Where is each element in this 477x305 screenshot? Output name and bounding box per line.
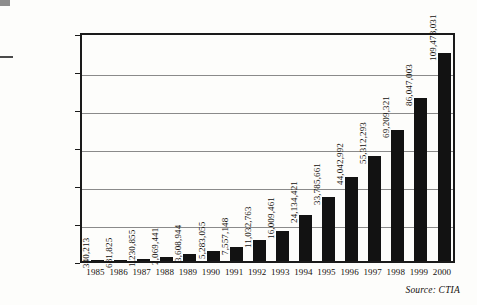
bar-value-label: 3,608,944: [173, 225, 183, 262]
bar: [137, 259, 150, 261]
y-axis-tick-mark: [75, 111, 80, 112]
bar: [368, 156, 381, 261]
bar-value-label: 5,283,055: [197, 222, 207, 259]
bar: [207, 251, 220, 261]
bar: [345, 177, 358, 261]
scan-artifact-corner: [0, 0, 10, 6]
chart-page: Source: CTIA 020,000,00040,000,00060,000…: [0, 0, 477, 305]
x-axis-tick-label: 2000: [425, 267, 459, 277]
gridline: [82, 75, 453, 76]
bar-value-label: 681,825: [104, 237, 114, 267]
bar: [438, 53, 451, 261]
bar-value-label: 2,069,441: [150, 228, 160, 265]
y-axis-tick-mark: [75, 73, 80, 74]
bar: [160, 257, 173, 261]
gridline: [82, 113, 453, 114]
y-axis-tick-mark: [75, 187, 80, 188]
bar: [322, 197, 335, 261]
bar-value-label: 1,230,855: [127, 229, 137, 266]
bar: [114, 260, 127, 261]
bar: [91, 260, 104, 261]
bar: [253, 240, 266, 261]
bar-value-label: 33,785,661: [312, 163, 322, 205]
bar-value-label: 69,209,321: [381, 96, 391, 138]
bar: [230, 247, 243, 261]
bar-value-label: 11,032,763: [243, 206, 253, 248]
bar-value-label: 44,042,992: [335, 143, 345, 185]
source-note: Source: CTIA: [405, 285, 460, 295]
bar: [414, 98, 427, 261]
bar-value-label: 340,213: [81, 238, 91, 268]
scan-artifact-dash: [0, 56, 13, 58]
bar: [183, 254, 196, 261]
bar-value-label: 86,047,003: [404, 64, 414, 106]
y-axis-tick-mark: [75, 149, 80, 150]
bar: [276, 231, 289, 261]
y-axis-tick-mark: [75, 263, 80, 264]
bar: [391, 130, 404, 261]
y-axis-tick-mark: [75, 225, 80, 226]
bar-value-label: 24,134,421: [289, 181, 299, 223]
y-axis-tick-mark: [75, 35, 80, 36]
bar-value-label: 109,478,031: [428, 14, 438, 61]
bar-value-label: 7,557,148: [220, 217, 230, 254]
bar-value-label: 55,312,293: [358, 122, 368, 164]
bar-value-label: 16,009,461: [266, 197, 276, 239]
bar: [299, 215, 312, 261]
